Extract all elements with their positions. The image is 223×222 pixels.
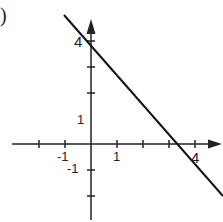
x-tick-label-1: 1 [113,150,120,163]
y-tick-label-4: 4 [74,34,82,49]
y-tick-label-1: 1 [77,113,84,126]
x-tick-label-4: 4 [191,150,199,165]
y-tick-label-neg1: -1 [67,162,79,175]
x-tick-label-neg1: -1 [57,150,69,163]
data-line [64,15,223,196]
chart-plot [0,0,223,222]
x-axis-arrow-icon [208,140,222,149]
y-axis-arrow-icon [87,19,96,34]
